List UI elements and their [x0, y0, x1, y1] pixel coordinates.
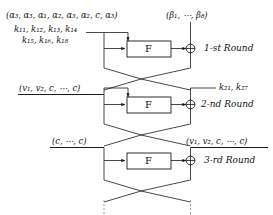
round2-label: 2-nd Round	[201, 100, 254, 109]
round3-label: 3-rd Round	[204, 156, 255, 165]
round3-f-label: F	[145, 155, 152, 166]
round1-label: 1-st Round	[204, 44, 253, 53]
round2-keys: k₂₁, k₂₇	[219, 83, 248, 91]
continuation-crossover-right	[141, 191, 191, 202]
round3-right-input-tuple: (v₁, v₂, c, ⋯, c)	[186, 137, 247, 145]
round3-left-input-tuple: (c, ⋯, c)	[52, 137, 87, 145]
round1-left-input-tuple: (α₃, α₃, α₁, α₂, α₃, α₂, c, α₃)	[6, 11, 118, 19]
round2-crossover-in-right	[141, 79, 191, 90]
round1-keys-line1: k₁₁, k₁₂, k₁₃, k₁₄	[14, 25, 77, 33]
continuation-wiring	[104, 191, 191, 215]
round3-crossover-in-right	[141, 135, 191, 146]
round2-left-input-tuple: (v₁, v₂, c, ⋯, c)	[19, 84, 80, 92]
round1-keys-line2: k₁₅, k₁₆, k₁₈	[22, 36, 68, 44]
round1-key-feed-wire	[86, 33, 128, 42]
round3-crossover-in-left	[104, 135, 141, 146]
round1-f-label: F	[145, 43, 152, 54]
round1-right-input-tuple: (β₁, ⋯, β₈)	[166, 11, 208, 19]
round2-f-label: F	[145, 99, 152, 110]
continuation-crossover-left	[104, 191, 141, 202]
feistel-round-diagram: (α₃, α₃, α₁, α₂, α₃, α₂, c, α₃) (β₁, ⋯, …	[0, 0, 273, 215]
round-1-wiring	[86, 22, 195, 79]
